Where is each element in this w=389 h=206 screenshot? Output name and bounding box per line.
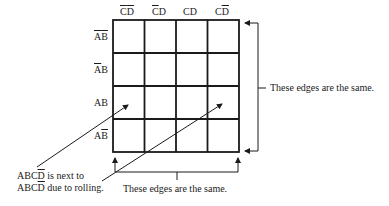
kmap-grid bbox=[113, 20, 239, 152]
column-header-2: CD bbox=[183, 6, 197, 17]
rolling-note-line2: ABCD due to rolling. bbox=[17, 182, 104, 193]
row-header-0: AB bbox=[94, 31, 108, 42]
right-bracket-label: These edges are the same. bbox=[270, 82, 374, 93]
column-header-3: CD bbox=[215, 6, 229, 17]
right-edge-bracket bbox=[245, 23, 266, 151]
bottom-bracket-label: These edges are the same. bbox=[123, 183, 227, 194]
row-header-1: AB bbox=[94, 64, 108, 75]
rolling-note-line1: ABCD is next to bbox=[17, 170, 84, 181]
column-header-1: CD bbox=[152, 6, 166, 17]
row-header-2: AB bbox=[94, 97, 108, 108]
row-header-3: AB bbox=[94, 130, 108, 141]
column-header-0: CD bbox=[120, 6, 134, 17]
